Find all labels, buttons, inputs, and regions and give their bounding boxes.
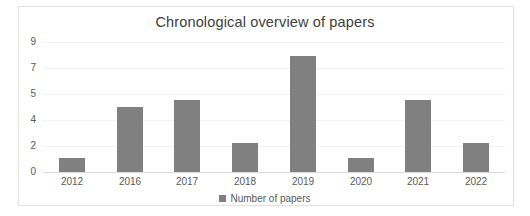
gridline [43, 68, 505, 69]
x-tick-label: 2019 [274, 176, 332, 187]
y-tick-label: 2 [10, 141, 36, 151]
chart-legend: Number of papers [0, 193, 530, 204]
bar[interactable] [463, 143, 489, 172]
x-tick-label: 2018 [216, 176, 274, 187]
y-tick-label: 0 [10, 167, 36, 177]
y-tick-label: 9 [10, 37, 36, 47]
y-tick-label: 7 [10, 63, 36, 73]
gridline [43, 120, 505, 121]
bar[interactable] [59, 158, 85, 172]
bar[interactable] [117, 107, 143, 172]
x-tick-label: 2020 [332, 176, 390, 187]
x-tick-label: 2022 [447, 176, 505, 187]
y-tick-label: 4 [10, 115, 36, 125]
x-tick-label: 2021 [389, 176, 447, 187]
gridline [43, 146, 505, 147]
y-tick-label: 5 [10, 89, 36, 99]
gridline [43, 94, 505, 95]
legend-label: Number of papers [230, 193, 310, 204]
plot-area [43, 42, 505, 172]
y-axis: 975420 [8, 42, 36, 172]
x-tick-label: 2017 [158, 176, 216, 187]
bar[interactable] [174, 100, 200, 172]
x-tick-label: 2016 [101, 176, 159, 187]
gridline [43, 42, 505, 43]
bar[interactable] [348, 158, 374, 172]
x-axis-line [43, 172, 505, 173]
x-tick-label: 2012 [43, 176, 101, 187]
chart-title: Chronological overview of papers [0, 14, 530, 30]
legend-swatch-icon [219, 195, 226, 202]
chart-container: Chronological overview of papers 975420 … [0, 0, 530, 216]
bar[interactable] [232, 143, 258, 172]
bar[interactable] [405, 100, 431, 172]
bar[interactable] [290, 56, 316, 172]
